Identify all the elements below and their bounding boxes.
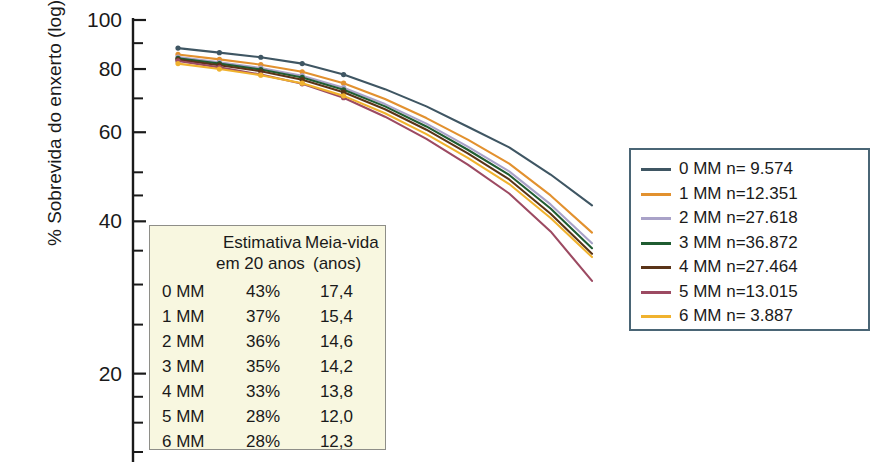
table-header-estimate-line2: em 20 anos: [216, 254, 305, 274]
table-cell-halflife: 17,4: [313, 282, 353, 302]
table-cell-halflife: 14,2: [313, 357, 353, 377]
legend-item[interactable]: 2 MM n=27.618: [631, 207, 872, 232]
table-cell-estimate: 33%: [238, 382, 280, 402]
table-cell-halflife: 12,0: [313, 407, 353, 427]
chart-root: % Sobrevida do enxerto (log) 10080604020…: [0, 0, 894, 464]
table-row: 3 MM35%14,2: [150, 357, 387, 382]
table-cell-halflife: 12,3: [313, 432, 353, 452]
series-marker-0-mm-4: [341, 72, 346, 77]
table-row: 1 MM37%15,4: [150, 307, 387, 332]
series-marker-6-mm-4: [341, 93, 346, 98]
legend-item[interactable]: 4 MM n=27.464: [631, 256, 872, 281]
legend: 0 MM n= 9.5741 MM n=12.3512 MM n=27.6183…: [629, 148, 870, 331]
table-cell-estimate: 43%: [238, 282, 280, 302]
legend-color-swatch: [641, 217, 671, 220]
table-cell-group: 0 MM: [162, 282, 205, 302]
legend-item[interactable]: 0 MM n= 9.574: [631, 158, 872, 183]
legend-color-swatch: [641, 266, 671, 269]
table-row: 4 MM33%13,8: [150, 382, 387, 407]
series-line-1-mm: [178, 54, 592, 232]
inset-summary-table: Estimativa Meia-vida em 20 anos (anos) 0…: [149, 225, 386, 450]
table-row: 5 MM28%12,0: [150, 407, 387, 432]
series-marker-6-mm-1: [217, 66, 222, 71]
legend-item[interactable]: 6 MM n= 3.887: [631, 305, 872, 330]
table-cell-halflife: 15,4: [313, 307, 353, 327]
series-marker-0-mm-3: [300, 61, 305, 66]
table-cell-estimate: 35%: [238, 357, 280, 377]
legend-item-label: 3 MM n=36.872: [679, 233, 798, 253]
table-cell-group: 3 MM: [162, 357, 205, 377]
table-row: 6 MM28%12,3: [150, 432, 387, 457]
table-cell-group: 4 MM: [162, 382, 205, 402]
legend-color-swatch: [641, 168, 671, 171]
legend-color-swatch: [641, 242, 671, 245]
legend-color-swatch: [641, 291, 671, 294]
legend-item-label: 6 MM n= 3.887: [679, 306, 793, 326]
table-cell-estimate: 37%: [238, 307, 280, 327]
series-marker-6-mm-3: [300, 81, 305, 86]
series-marker-6-mm-2: [258, 73, 263, 78]
table-row: 0 MM43%17,4: [150, 282, 387, 307]
legend-item-label: 2 MM n=27.618: [679, 208, 798, 228]
table-row: 2 MM36%14,6: [150, 332, 387, 357]
table-cell-group: 2 MM: [162, 332, 205, 352]
table-header-halflife-line2: (anos): [313, 254, 361, 274]
table-cell-halflife: 13,8: [313, 382, 353, 402]
series-marker-0-mm-1: [217, 50, 222, 55]
table-cell-halflife: 14,6: [313, 332, 353, 352]
table-cell-estimate: 28%: [238, 432, 280, 452]
table-cell-estimate: 28%: [238, 407, 280, 427]
series-marker-0-mm-0: [175, 45, 180, 50]
table-cell-group: 1 MM: [162, 307, 205, 327]
legend-color-swatch: [641, 193, 671, 196]
table-cell-group: 5 MM: [162, 407, 205, 427]
table-header-estimate-line1: Estimativa: [223, 233, 301, 253]
legend-item[interactable]: 5 MM n=13.015: [631, 281, 872, 306]
series-marker-0-mm-2: [258, 55, 263, 60]
series-marker-6-mm-0: [175, 61, 180, 66]
legend-color-swatch: [641, 315, 671, 318]
legend-item[interactable]: 1 MM n=12.351: [631, 183, 872, 208]
series-line-3-mm: [178, 58, 592, 248]
legend-item-label: 1 MM n=12.351: [679, 184, 798, 204]
series-marker-1-mm-4: [341, 81, 346, 86]
table-cell-estimate: 36%: [238, 332, 280, 352]
legend-item-label: 4 MM n=27.464: [679, 257, 798, 277]
legend-item-label: 5 MM n=13.015: [679, 282, 798, 302]
table-cell-group: 6 MM: [162, 432, 205, 452]
legend-item-label: 0 MM n= 9.574: [679, 159, 793, 179]
series-line-2-mm: [178, 57, 592, 243]
legend-item[interactable]: 3 MM n=36.872: [631, 232, 872, 257]
table-header-halflife-line1: Meia-vida: [305, 233, 379, 253]
